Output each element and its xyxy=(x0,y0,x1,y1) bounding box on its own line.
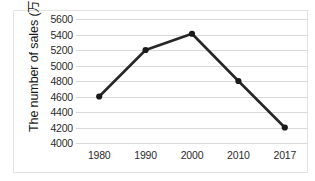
line-path xyxy=(99,34,285,128)
x-axis-tick-labels: 19801990200020102017 xyxy=(76,149,308,165)
y-axis-tick-label: 4000 xyxy=(38,137,73,149)
gridline xyxy=(76,143,308,144)
data-point-marker xyxy=(235,78,241,84)
data-point-marker xyxy=(96,93,102,99)
y-axis-tick-label: 4600 xyxy=(38,91,73,103)
x-axis-tick-label: 1980 xyxy=(88,149,111,161)
y-axis-tick-labels: 560054005200500048004600440042004000 xyxy=(38,19,73,143)
y-axis-tick-label: 5600 xyxy=(38,13,73,25)
y-axis-tick-label: 4200 xyxy=(38,122,73,134)
data-point-marker xyxy=(282,124,288,130)
y-axis-tick-label: 5200 xyxy=(38,44,73,56)
x-axis-tick-label: 1990 xyxy=(134,149,157,161)
x-axis-tick-label: 2010 xyxy=(227,149,250,161)
data-point-marker xyxy=(143,47,149,53)
y-axis-tick-label: 4400 xyxy=(38,106,73,118)
data-point-marker xyxy=(189,31,195,37)
line-series-svg xyxy=(76,19,308,143)
x-axis-tick-label: 2000 xyxy=(181,149,204,161)
chart-screenshot: The number of sales (万部) 560054005200500… xyxy=(0,0,315,181)
x-axis-tick-label: 2017 xyxy=(274,149,297,161)
y-axis-tick-label: 5000 xyxy=(38,60,73,72)
y-axis-tick-label: 5400 xyxy=(38,29,73,41)
chart-frame: The number of sales (万部) 560054005200500… xyxy=(13,10,308,173)
plot-area xyxy=(76,19,308,143)
y-axis-tick-label: 4800 xyxy=(38,75,73,87)
